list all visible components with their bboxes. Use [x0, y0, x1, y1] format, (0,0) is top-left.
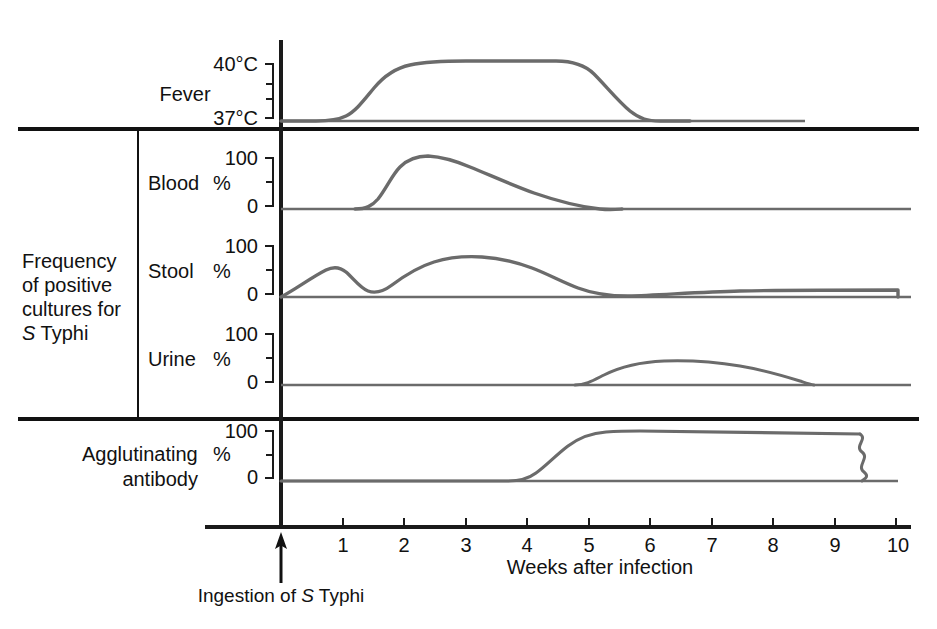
antibody-panel-label: Agglutinating — [82, 443, 198, 465]
blood-panel-unit: % — [213, 172, 231, 194]
fever-axis-top-label: 40°C — [213, 53, 258, 75]
x-tick-label: 7 — [706, 534, 717, 556]
urine-axis-top-label: 100 — [225, 323, 258, 345]
x-tick-label: 6 — [644, 534, 655, 556]
stool-panel-unit: % — [213, 260, 231, 282]
x-tick-label: 1 — [337, 534, 348, 556]
urine-axis-bottom-label: 0 — [247, 371, 258, 393]
antibody-axis-bottom-label: 0 — [247, 466, 258, 488]
stool-axis-bottom-label: 0 — [247, 283, 258, 305]
blood-axis-top-label: 100 — [225, 147, 258, 169]
x-tick-label: 3 — [460, 534, 471, 556]
fever-axis-bottom-label: 37°C — [213, 107, 258, 129]
stool-axis-top-label: 100 — [225, 235, 258, 257]
antibody-panel-label-line2: antibody — [122, 468, 198, 490]
row-group-label-line: Frequency — [22, 250, 117, 272]
row-group-label-line: cultures for — [22, 298, 121, 320]
x-axis-label: Weeks after infection — [507, 556, 693, 578]
antibody-axis-top-label: 100 — [225, 420, 258, 442]
blood-panel-label: Blood — [148, 172, 199, 194]
x-tick-label: 2 — [398, 534, 409, 556]
row-group-label-line: of positive — [22, 274, 112, 296]
x-tick-label: 8 — [767, 534, 778, 556]
x-tick-label: 9 — [829, 534, 840, 556]
urine-panel-unit: % — [213, 348, 231, 370]
typhoid-timecourse-figure: 1 2 3 4 5 6 7 8 9 10 Weeks after infecti… — [0, 0, 937, 629]
stool-panel-label: Stool — [148, 260, 194, 282]
x-tick-label: 5 — [583, 534, 594, 556]
row-group-label-line-italic: S Typhi — [22, 322, 88, 344]
urine-panel-label: Urine — [148, 348, 196, 370]
blood-axis-bottom-label: 0 — [247, 195, 258, 217]
ingestion-annotation: Ingestion of S Typhi — [198, 585, 365, 606]
x-tick-label: 4 — [521, 534, 532, 556]
fever-panel-label: Fever — [159, 83, 210, 105]
antibody-panel-unit: % — [213, 443, 231, 465]
x-tick-label: 10 — [887, 534, 909, 556]
